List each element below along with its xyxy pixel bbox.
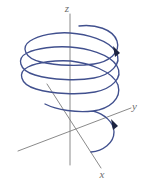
x-axis-label: x: [99, 168, 105, 180]
x-axis-line: [47, 84, 101, 168]
helix-figure-canvas: z y x: [0, 0, 152, 188]
helix-diagram: z y x: [0, 0, 152, 188]
helix-direction-arrow-lower: [111, 119, 118, 130]
y-axis-label: y: [131, 100, 137, 112]
axes-group: [18, 14, 131, 168]
z-axis-label: z: [64, 2, 70, 14]
